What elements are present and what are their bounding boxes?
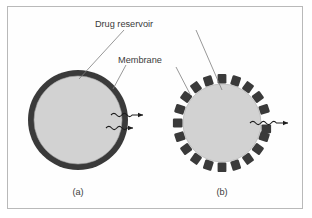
panel-a-device [28,70,128,170]
leader-membrane-to-a [113,65,126,89]
leader-membrane-to-b [176,67,190,94]
label-membrane: Membrane [118,55,162,65]
membrane-segment [262,124,272,133]
label-panel-b: (b) [216,187,227,197]
panel-b-drug-reservoir [183,84,261,162]
label-panel-a: (a) [72,187,83,197]
figure-root: Drug reservoir Membrane (a) (b) [0,0,312,218]
diagram-canvas: Drug reservoir Membrane (a) (b) [0,0,312,218]
membrane-segment [218,163,227,173]
membrane-segment [173,119,183,128]
label-drug-reservoir: Drug reservoir [95,19,153,29]
panel-a-drug-reservoir [34,76,122,164]
